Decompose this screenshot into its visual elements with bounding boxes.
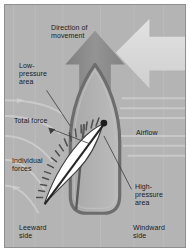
figure-container: Direction of movement Low- pressure area… xyxy=(0,0,190,252)
label-total-force: Total force xyxy=(14,117,47,125)
diagram-artwork xyxy=(5,5,185,247)
label-leeward-side: Leeward side xyxy=(19,224,47,240)
label-airflow: Airflow xyxy=(136,129,158,137)
total-force-vector-head xyxy=(101,120,108,127)
label-low-pressure-area: Low- pressure area xyxy=(19,62,47,86)
label-windward-side: Windward side xyxy=(133,224,165,240)
label-high-pressure-area: High- pressure area xyxy=(135,183,163,207)
diagram-plate: Direction of movement Low- pressure area… xyxy=(4,4,186,248)
label-direction-of-movement: Direction of movement xyxy=(51,24,88,40)
label-individual-forces: Individual forces xyxy=(12,157,43,173)
